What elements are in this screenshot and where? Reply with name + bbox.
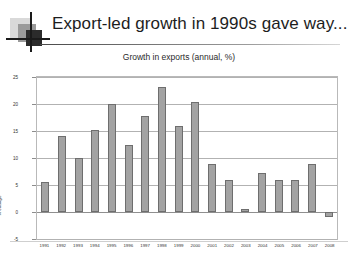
chart-bar: [41, 182, 49, 212]
y-axis-tick-label: 10: [0, 156, 18, 161]
x-axis-tick-label: 1993: [70, 243, 87, 248]
bar-slot: [120, 77, 137, 239]
bar-slot: [320, 77, 337, 239]
bar-slot: [37, 77, 54, 239]
x-axis-tick-label: 1992: [53, 243, 70, 248]
x-axis-tick-label: 1996: [120, 243, 137, 248]
x-axis-tick-label: 1998: [153, 243, 170, 248]
chart-bar: [258, 173, 266, 212]
bar-slot: [137, 77, 154, 239]
bar-slot: [304, 77, 321, 239]
y-axis-tick-label: 5: [0, 183, 18, 188]
bar-slot: [154, 77, 171, 239]
chart-title: Growth in exports (annual, %): [0, 52, 358, 62]
chart-bar: [275, 180, 283, 212]
x-axis-tick-label: 1994: [86, 243, 103, 248]
x-axis-tick-label: 2007: [305, 243, 322, 248]
y-axis-tick-label: 20: [0, 102, 18, 107]
bar-slot: [237, 77, 254, 239]
chart-bar-series: [37, 77, 337, 239]
chart-bar: [141, 116, 149, 212]
bar-slot: [220, 77, 237, 239]
chart-bar: [308, 164, 316, 212]
x-axis-tick-label: 2003: [237, 243, 254, 248]
chart-bar: [58, 136, 66, 212]
chart-bar: [108, 104, 116, 212]
logo-horizontal-rule: [6, 38, 50, 40]
x-axis-tick-label: 2002: [221, 243, 238, 248]
chart-bar: [241, 209, 249, 212]
bar-slot: [87, 77, 104, 239]
chart-x-axis: 1991199219931994199519961997199819992000…: [36, 243, 338, 248]
bar-slot: [270, 77, 287, 239]
slide-baseline-rule: [10, 241, 348, 242]
bar-slot: [287, 77, 304, 239]
y-axis-tick-label: 0: [0, 210, 18, 215]
chart-bar: [325, 212, 333, 217]
y-axis-title: % change: [0, 196, 2, 216]
logo-vertical-rule: [30, 12, 32, 52]
chart-bar: [125, 145, 133, 213]
bar-slot: [204, 77, 221, 239]
bar-slot: [54, 77, 71, 239]
chart-bar: [91, 130, 99, 212]
chart-plot-area: [36, 76, 338, 240]
gridline: [37, 239, 337, 240]
chart-bar: [175, 126, 183, 212]
chart-bar: [191, 102, 199, 212]
bar-slot: [104, 77, 121, 239]
chart-bar: [208, 164, 216, 212]
x-axis-tick-label: 2000: [187, 243, 204, 248]
x-axis-tick-label: 1991: [36, 243, 53, 248]
title-divider: [40, 44, 340, 45]
bar-slot: [170, 77, 187, 239]
chart-bar: [225, 180, 233, 212]
bar-slot: [187, 77, 204, 239]
chart-bar: [291, 180, 299, 212]
x-axis-tick-label: 2001: [204, 243, 221, 248]
x-axis-tick-label: 2005: [271, 243, 288, 248]
x-axis-tick-label: 2008: [321, 243, 338, 248]
y-axis-tick-label: 15: [0, 129, 18, 134]
x-axis-tick-label: 1997: [137, 243, 154, 248]
bar-slot: [254, 77, 271, 239]
x-axis-tick-label: 1999: [170, 243, 187, 248]
decorative-square-logo-icon: [6, 12, 50, 52]
slide-header: Export-led growth in 1990s gave way...: [0, 0, 358, 50]
x-axis-tick-label: 1995: [103, 243, 120, 248]
bar-slot: [70, 77, 87, 239]
page-title: Export-led growth in 1990s gave way...: [52, 14, 347, 34]
x-axis-tick-label: 2004: [254, 243, 271, 248]
chart-bar: [158, 87, 166, 212]
chart-bar: [75, 158, 83, 212]
x-axis-tick-label: 2006: [288, 243, 305, 248]
y-axis-tick-label: 25: [0, 75, 18, 80]
